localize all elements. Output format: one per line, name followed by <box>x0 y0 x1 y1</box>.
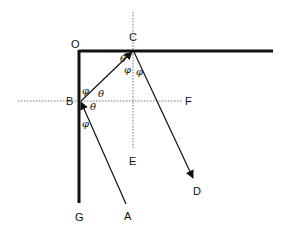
label-g: G <box>75 211 84 223</box>
label-d: D <box>193 185 201 197</box>
angle-phi-b-upper: φ <box>82 85 89 96</box>
label-e: E <box>129 155 136 167</box>
label-o: O <box>71 38 80 50</box>
label-f: F <box>185 95 192 107</box>
angle-theta-c: θ <box>120 53 126 64</box>
label-c: C <box>129 31 137 43</box>
angle-theta-b-lower: θ <box>90 101 96 112</box>
label-b: B <box>66 95 73 107</box>
angle-phi-b-lower: φ <box>82 118 89 129</box>
angle-theta-b-upper: θ <box>98 88 104 99</box>
reflection-diagram: O C B F E D G A θ φ φ φ θ θ φ <box>0 0 286 234</box>
label-a: A <box>124 210 132 222</box>
angle-phi-c-right: φ <box>136 66 143 77</box>
angle-phi-c-left: φ <box>124 64 131 75</box>
